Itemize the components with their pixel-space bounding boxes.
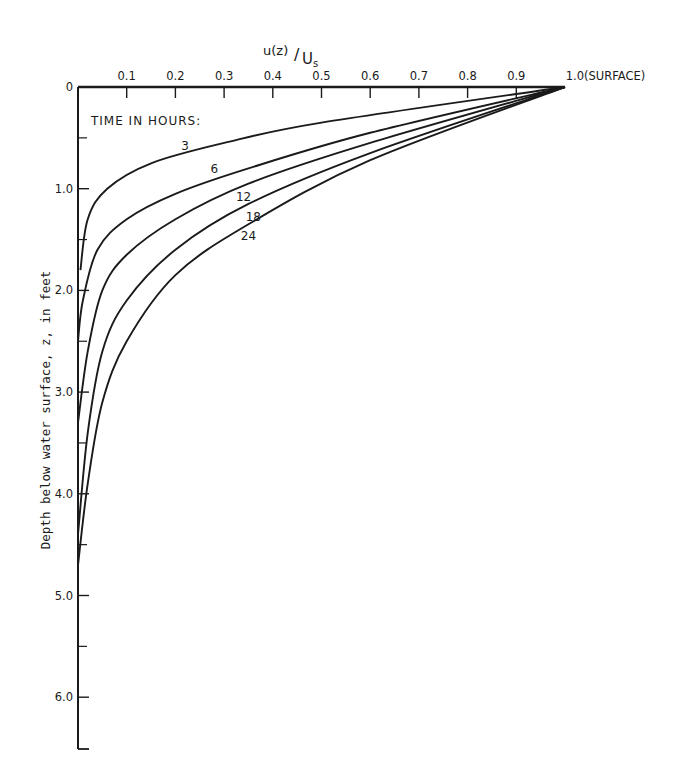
axes <box>78 87 565 749</box>
curve-label: 12 <box>236 190 251 204</box>
x-axis-title-slash: / <box>294 45 300 64</box>
x-tick-label: 0.4 <box>264 69 282 83</box>
curve-label: 3 <box>181 139 189 153</box>
x-axis-title-subscript: s <box>313 58 318 69</box>
surface-annotation: (SURFACE) <box>584 69 645 83</box>
curve-18h <box>78 87 565 534</box>
y-tick-label: 3.0 <box>55 385 73 399</box>
y-tick-label: 6.0 <box>55 690 73 704</box>
x-tick-label: 0.3 <box>215 69 233 83</box>
x-axis-title: u(z) / U s <box>263 43 318 69</box>
y-tick-label: 0 <box>66 80 73 94</box>
legend-title: TIME IN HOURS: <box>90 114 201 128</box>
curve-labels: 36121824 <box>181 139 261 242</box>
depth-velocity-chart: u(z) / U s 0.10.20.30.40.50.60.70.80.91.… <box>0 0 681 773</box>
curve-12h <box>78 87 565 423</box>
x-axis-title-denominator: U <box>302 50 313 68</box>
curve-label: 6 <box>211 162 219 176</box>
y-tick-label: 2.0 <box>55 283 73 297</box>
x-tick-label: 0.8 <box>458 69 476 83</box>
y-axis-title: Depth below water surface, z, in feet <box>38 271 53 549</box>
x-tick-label: 0.9 <box>507 69 525 83</box>
x-axis-title-numerator: u(z) <box>263 43 288 58</box>
x-tick-label: 0.1 <box>118 69 136 83</box>
y-tick-label: 4.0 <box>55 487 73 501</box>
x-tick-label: 0.6 <box>361 69 379 83</box>
y-tick-label: 5.0 <box>55 589 73 603</box>
y-tick-label: 1.0 <box>55 182 73 196</box>
x-tick-label: 0.7 <box>410 69 428 83</box>
curve-label: 18 <box>246 210 261 224</box>
x-tick-label: 1.0 <box>566 69 584 83</box>
x-tick-label: 0.5 <box>312 69 330 83</box>
y-ticks: 01.02.03.04.05.06.0 <box>55 80 89 704</box>
curves <box>78 87 565 565</box>
curve-label: 24 <box>241 229 256 243</box>
x-tick-label: 0.2 <box>166 69 184 83</box>
